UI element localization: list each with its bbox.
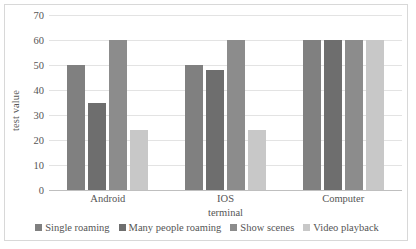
bar <box>67 65 85 190</box>
legend-swatch-icon <box>119 224 126 231</box>
x-axis-tick-label: Android <box>49 193 167 204</box>
legend-swatch-icon <box>35 224 42 231</box>
bars-layer <box>49 15 402 190</box>
x-axis-tick-labels: AndroidIOSComputer <box>49 193 402 204</box>
bar <box>88 103 106 191</box>
bar <box>366 40 384 190</box>
bar-group <box>49 15 167 190</box>
legend-swatch-icon <box>303 224 310 231</box>
y-axis-tick-label: 70 <box>34 10 45 21</box>
legend-label: Show scenes <box>240 222 294 233</box>
bar <box>206 70 224 190</box>
legend-label: Many people roaming <box>129 222 222 233</box>
legend-item[interactable]: Show scenes <box>230 222 294 233</box>
legend-label: Single roaming <box>45 222 109 233</box>
bar <box>303 40 321 190</box>
bar <box>324 40 342 190</box>
bar-group <box>284 15 402 190</box>
bar <box>185 65 203 190</box>
y-axis-tick-label: 50 <box>34 60 45 71</box>
bar <box>248 130 266 190</box>
y-axis-tick-label: 0 <box>39 185 44 196</box>
legend-item[interactable]: Many people roaming <box>119 222 222 233</box>
plot-area: 706050403020100 <box>49 15 402 190</box>
y-axis-tick-label: 10 <box>34 160 45 171</box>
bar-group <box>167 15 285 190</box>
y-axis-title: test value <box>8 55 22 165</box>
bar <box>227 40 245 190</box>
y-axis-tick-label: 20 <box>34 135 45 146</box>
x-axis-tick-label: Computer <box>284 193 402 204</box>
y-axis-tick-label: 40 <box>34 85 45 96</box>
y-axis-tick-label: 30 <box>34 110 45 121</box>
chart-frame: test value 706050403020100 AndroidIOSCom… <box>4 4 408 241</box>
legend-item[interactable]: Single roaming <box>35 222 109 233</box>
bar <box>109 40 127 190</box>
bar <box>130 130 148 190</box>
x-axis-line <box>49 190 402 191</box>
legend-item[interactable]: Video playback <box>303 222 379 233</box>
y-axis-title-label: test value <box>10 90 21 131</box>
legend-swatch-icon <box>230 224 237 231</box>
bar <box>345 40 363 190</box>
legend-label: Video playback <box>313 222 379 233</box>
y-axis-tick-label: 60 <box>34 35 45 46</box>
x-axis-title: terminal <box>49 207 402 218</box>
x-axis-tick-label: IOS <box>167 193 285 204</box>
chart-legend: Single roamingMany people roamingShow sc… <box>5 222 409 233</box>
